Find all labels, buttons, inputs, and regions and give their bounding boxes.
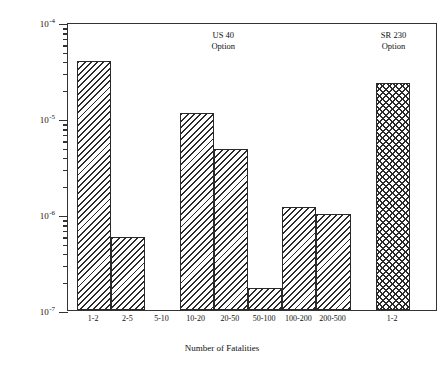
bar-50-100 xyxy=(248,288,282,310)
y-axis-major-tick xyxy=(59,24,68,25)
bar-1-2 xyxy=(376,83,410,310)
bar-1-2 xyxy=(77,61,111,310)
x-axis-tick-label: 1-2 xyxy=(88,314,99,323)
y-tick-base: 10 xyxy=(40,19,49,29)
y-axis-minor-tick xyxy=(63,45,68,46)
annotation-sr-230: SR 230Option xyxy=(346,30,441,52)
annotation-line-1: US 40 xyxy=(176,30,271,41)
y-axis-minor-tick xyxy=(63,245,68,246)
y-axis-minor-tick xyxy=(63,283,68,284)
y-tick-base: 10 xyxy=(40,307,49,317)
y-axis-major-tick xyxy=(59,216,68,217)
y-axis-minor-tick xyxy=(63,266,68,267)
x-axis-tick-label: 100-200 xyxy=(285,314,312,323)
bar-200-500 xyxy=(316,214,350,310)
y-axis-minor-tick xyxy=(63,149,68,150)
annotation-line-2: Option xyxy=(346,41,441,52)
y-axis-minor-tick xyxy=(63,237,68,238)
y-axis-minor-tick xyxy=(63,62,68,63)
bar-10-20 xyxy=(180,113,214,310)
y-axis-minor-tick xyxy=(63,129,68,130)
y-axis-minor-tick xyxy=(63,141,68,142)
y-tick-base: 10 xyxy=(40,115,49,125)
y-axis-major-tick xyxy=(59,120,68,121)
annotation-line-1: SR 230 xyxy=(346,30,441,41)
bar-2-5 xyxy=(111,237,145,310)
x-axis-tick-label: 2-5 xyxy=(122,314,133,323)
y-axis-minor-tick xyxy=(63,124,68,125)
plot-area: US 40OptionSR 230Option xyxy=(67,23,437,311)
x-axis-tick-label: 5-10 xyxy=(154,314,169,323)
x-axis-tick-label: 1-2 xyxy=(387,314,398,323)
y-axis-minor-tick xyxy=(63,158,68,159)
y-tick-exponent: -4 xyxy=(49,17,55,25)
y-axis-minor-tick xyxy=(63,28,68,29)
x-axis-tick-label: 20-50 xyxy=(221,314,240,323)
y-tick-base: 10 xyxy=(40,211,49,221)
y-axis-minor-tick xyxy=(63,135,68,136)
y-axis-minor-tick xyxy=(63,225,68,226)
annotation-us-40: US 40Option xyxy=(176,30,271,52)
y-tick-exponent: -6 xyxy=(49,209,55,217)
y-axis-minor-tick xyxy=(63,53,68,54)
bar-20-50 xyxy=(214,149,248,310)
y-axis-minor-tick xyxy=(63,91,68,92)
y-axis-minor-tick xyxy=(63,33,68,34)
y-axis-minor-tick xyxy=(63,231,68,232)
y-axis-minor-tick xyxy=(63,254,68,255)
chart-root: US 40OptionSR 230Option 10-410-510-610-7… xyxy=(0,0,444,365)
y-axis-minor-tick xyxy=(63,74,68,75)
y-axis-minor-tick xyxy=(63,39,68,40)
y-tick-exponent: -7 xyxy=(49,305,55,313)
y-axis-tick-label: 10-7 xyxy=(40,305,55,317)
x-axis-tick-label: 200-500 xyxy=(319,314,346,323)
x-axis-tick-label: 10-20 xyxy=(186,314,205,323)
y-axis-minor-tick xyxy=(63,187,68,188)
y-tick-exponent: -5 xyxy=(49,113,55,121)
annotation-line-2: Option xyxy=(176,41,271,52)
y-axis-tick-label: 10-5 xyxy=(40,113,55,125)
y-axis-tick-label: 10-4 xyxy=(40,17,55,29)
x-axis-title: Number of Fatalities xyxy=(0,343,444,353)
x-axis-tick-labels: 1-22-55-1010-2020-5050-100100-200200-500… xyxy=(67,314,437,330)
y-axis-minor-tick xyxy=(63,220,68,221)
x-axis-tick-label: 50-100 xyxy=(253,314,276,323)
y-axis-minor-tick xyxy=(63,170,68,171)
y-axis-tick-label: 10-6 xyxy=(40,209,55,221)
bar-100-200 xyxy=(282,207,316,310)
